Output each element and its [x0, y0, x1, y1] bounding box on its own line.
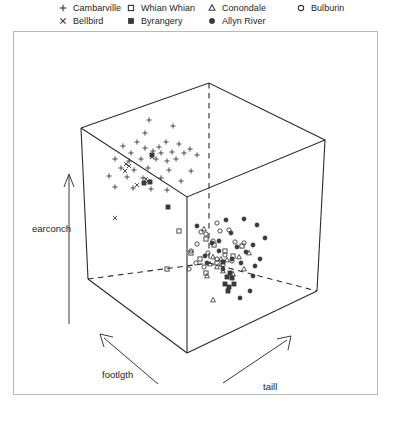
data-point [130, 185, 135, 190]
data-point [223, 282, 227, 286]
data-point [255, 223, 259, 227]
data-point [205, 261, 209, 265]
data-point [135, 183, 139, 187]
data-point [233, 240, 237, 244]
data-point [242, 266, 247, 270]
legend-item[interactable]: Cambarville [57, 2, 121, 14]
legend: Cambarville BellbirdWhian WhianByrangery… [0, 0, 396, 28]
legend-item[interactable]: Conondale [206, 2, 266, 14]
open-circle-icon [295, 2, 307, 14]
cross-icon [57, 15, 69, 27]
data-point [258, 257, 262, 261]
data-point [211, 297, 216, 301]
data-point [244, 250, 248, 254]
data-point [176, 141, 181, 146]
legend-column: Cambarville Bellbird [57, 2, 121, 28]
legend-item[interactable]: Whian Whian [125, 2, 195, 14]
open-triangle-icon [206, 2, 218, 14]
data-point [142, 181, 146, 185]
data-point [227, 285, 231, 289]
data-point [227, 228, 231, 232]
data-point [199, 230, 203, 234]
data-point [230, 276, 234, 280]
data-point [224, 218, 228, 222]
taill-arrow-head [277, 336, 291, 350]
data-point [194, 152, 199, 157]
axis-label-earconch: earconch [32, 223, 71, 234]
series-bellbird [113, 155, 154, 220]
data-point [148, 186, 153, 191]
legend-item-label: Cambarville [73, 2, 121, 14]
data-point [134, 139, 139, 144]
data-point [205, 273, 210, 277]
data-point [248, 289, 252, 293]
data-point [218, 229, 222, 233]
data-point [188, 168, 193, 173]
data-point [112, 156, 117, 161]
filled-square-icon [125, 15, 137, 27]
data-point [238, 296, 242, 300]
data-point [251, 274, 255, 278]
data-point [226, 289, 230, 293]
data-point [181, 150, 186, 155]
filled-circle-icon [206, 15, 218, 27]
scatter3d-canvas [14, 32, 377, 394]
open-square-icon [125, 2, 137, 14]
legend-item[interactable]: Bulburin [295, 2, 344, 14]
data-point [194, 261, 198, 265]
data-point [225, 275, 229, 279]
plus-icon [57, 2, 69, 14]
data-point [253, 264, 257, 268]
axis-label-footlgth: footlgth [102, 369, 133, 380]
legend-item-label: Conondale [222, 2, 266, 14]
legend-item[interactable]: Bellbird [57, 15, 121, 27]
legend-item-label: Bellbird [73, 15, 103, 27]
data-point [195, 242, 199, 246]
data-point [131, 167, 136, 172]
data-point [138, 156, 143, 161]
data-point [123, 169, 127, 173]
data-point [142, 145, 147, 150]
data-point [118, 165, 123, 170]
data-point [164, 158, 169, 163]
legend-item[interactable]: Byrangery [125, 15, 195, 27]
data-point [156, 144, 161, 149]
data-point [113, 216, 117, 220]
legend-column: Bulburin [295, 2, 344, 15]
plot-frame: earconch footlgth taill [13, 31, 378, 395]
data-point [170, 123, 175, 128]
data-point [263, 236, 267, 240]
data-point [217, 249, 221, 253]
data-point [146, 117, 151, 122]
data-point [215, 221, 219, 225]
data-point [232, 282, 236, 286]
legend-item-label: Byrangery [141, 15, 182, 27]
data-point [225, 257, 230, 261]
data-point [158, 150, 163, 155]
data-point [120, 143, 125, 148]
legend-item-label: Allyn River [222, 15, 266, 27]
data-point [128, 150, 133, 155]
data-point [142, 130, 147, 135]
axis-label-taill: taill [263, 381, 277, 392]
legend-item[interactable]: Allyn River [206, 15, 266, 27]
data-point [163, 139, 168, 144]
data-point [204, 237, 208, 241]
series-byrangery [142, 153, 236, 293]
data-point [195, 224, 199, 228]
data-point [150, 153, 154, 157]
data-point [204, 232, 208, 236]
data-point [165, 267, 169, 271]
data-point [106, 173, 111, 178]
data-point [124, 174, 129, 179]
axis-arrows [64, 174, 291, 384]
data-point [158, 175, 163, 180]
data-point [237, 254, 242, 258]
data-point [242, 217, 246, 221]
data-point [112, 184, 117, 189]
data-point [166, 205, 170, 209]
legend-column: Whian WhianByrangery [125, 2, 195, 28]
legend-column: ConondaleAllyn River [206, 2, 266, 28]
data-point [198, 257, 202, 261]
data-point [166, 167, 171, 172]
